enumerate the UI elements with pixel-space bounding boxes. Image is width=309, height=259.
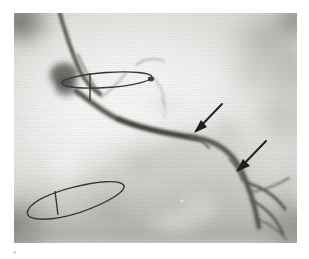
angiogram-canvas: [14, 13, 297, 243]
figure-root: a: [0, 0, 309, 259]
figure-caption-mark: a: [13, 249, 17, 255]
marker-ellipse-upper-endpoint: [148, 77, 154, 82]
angiogram-image: [14, 13, 297, 243]
